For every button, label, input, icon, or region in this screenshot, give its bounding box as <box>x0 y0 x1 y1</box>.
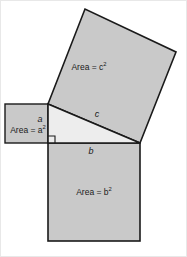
side-label-b: b <box>88 147 93 156</box>
side-label-c: c <box>95 110 100 119</box>
area-label-b: Area = b2 <box>76 188 112 197</box>
pythagorean-theorem-figure: Area = c2 Area = a2 Area = b2 a b c <box>0 0 187 257</box>
side-label-a: a <box>37 115 42 124</box>
area-label-a: Area = a2 <box>10 126 46 135</box>
area-label-c: Area = c2 <box>71 63 106 72</box>
